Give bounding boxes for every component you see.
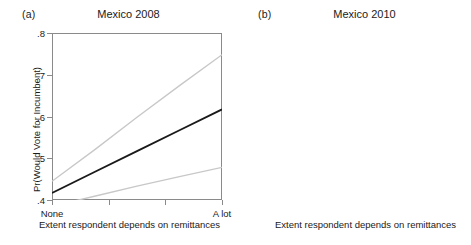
panel-mexico-2008: (a) Mexico 2008 .4 .5 .6 .7 .8 — [0, 0, 235, 245]
series-upper-ci-a — [52, 55, 222, 182]
x-tick-mark-a-3 — [222, 200, 223, 205]
panel-title-b: Mexico 2010 — [236, 8, 471, 20]
y-tick-mark-a-2 — [47, 117, 52, 118]
panel-title-a: Mexico 2008 — [0, 8, 235, 20]
x-tick-mark-a-2 — [165, 200, 166, 205]
x-tick-mark-a-1 — [109, 200, 110, 205]
y-tick-mark-a-4 — [47, 33, 52, 34]
y-tick-label-a-4: .8 — [37, 28, 45, 39]
series-lower-ci-a — [52, 167, 222, 200]
x-axis-title-b: Extent respondent depends on remittances — [236, 219, 471, 230]
x-tick-mark-a-0 — [52, 200, 53, 205]
y-tick-label-a-0: .4 — [37, 195, 45, 206]
y-tick-mark-a-3 — [47, 75, 52, 76]
panel-mexico-2010: (b) Mexico 2010 .2 .3 .4 .5 .6 None — [236, 0, 471, 245]
figure-two-panel-chart: (a) Mexico 2008 .4 .5 .6 .7 .8 — [0, 0, 471, 245]
y-axis-title-a: Pr(Would Vote for Incumbent) — [31, 67, 42, 192]
x-axis-title-a: Extent respondent depends on remittances — [0, 219, 235, 230]
chart-lines-a — [52, 33, 222, 200]
x-tick-label-a-left: None — [41, 208, 64, 219]
series-predicted-a — [52, 109, 222, 193]
x-tick-label-a-right: A lot — [213, 208, 232, 219]
plot-area-a: .4 .5 .6 .7 .8 None A lot — [52, 33, 222, 200]
y-tick-mark-a-1 — [47, 158, 52, 159]
